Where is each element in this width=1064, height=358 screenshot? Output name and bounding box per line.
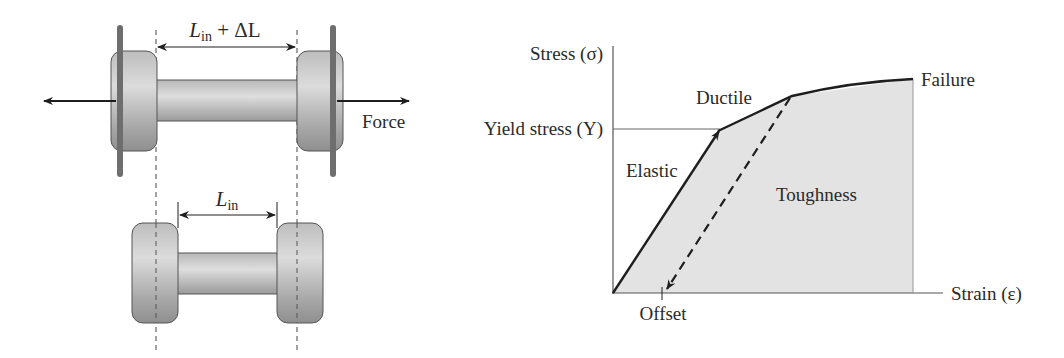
original-length-label: Lin <box>215 187 239 213</box>
failure-label: Failure <box>921 69 975 90</box>
stretched-length-label: Lin + ΔL <box>188 18 260 44</box>
left-clamp-bar <box>117 25 123 177</box>
offset-label: Offset <box>639 303 687 324</box>
stretched-specimen: Lin + ΔL Force <box>44 18 409 352</box>
original-right-grip-block <box>277 223 323 323</box>
stress-strain-chart: Stress (σ) Yield stress (Y) Strain (ε) E… <box>484 43 1022 324</box>
ductile-label: Ductile <box>696 87 752 108</box>
toughness-label: Toughness <box>776 184 857 205</box>
original-specimen: Lin <box>132 187 323 323</box>
yield-stress-label: Yield stress (Y) <box>484 118 603 140</box>
right-grip-block <box>297 51 343 151</box>
y-axis-label: Stress (σ) <box>530 43 603 65</box>
stretched-specimen-shaft <box>152 80 302 121</box>
elastic-label: Elastic <box>626 160 678 181</box>
original-left-grip-block <box>132 223 178 323</box>
original-specimen-shaft <box>174 253 282 294</box>
toughness-area <box>613 79 913 293</box>
right-clamp-bar <box>330 25 336 177</box>
figure-canvas: Lin + ΔL Force Lin <box>0 0 1064 358</box>
x-axis-label: Strain (ε) <box>951 283 1022 305</box>
force-label: Force <box>362 111 405 132</box>
